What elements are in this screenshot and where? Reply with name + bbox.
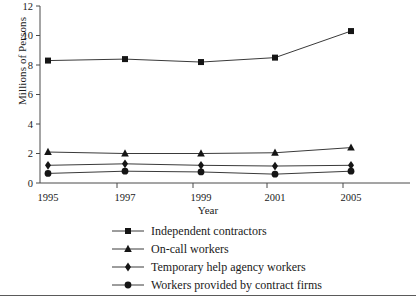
legend-item-label: On-call workers xyxy=(151,242,229,256)
svg-text:4: 4 xyxy=(28,119,34,130)
legend-item[interactable]: Workers provided by contract firms xyxy=(0,276,416,294)
circle-marker-icon xyxy=(112,278,144,292)
svg-text:2001: 2001 xyxy=(265,192,286,203)
svg-text:6: 6 xyxy=(28,89,33,100)
x-axis-title: Year xyxy=(0,204,416,216)
legend-item-label: Temporary help agency workers xyxy=(151,260,306,274)
legend-item-label: Independent contractors xyxy=(151,224,267,238)
legend-item-label: Workers provided by contract firms xyxy=(151,278,322,292)
svg-text:0: 0 xyxy=(28,178,33,189)
chart-figure: 02468101219951997199920012005 Millions o… xyxy=(0,0,416,301)
legend-item[interactable]: Independent contractors xyxy=(0,222,416,240)
svg-text:1999: 1999 xyxy=(191,192,212,203)
y-axis-title: Millions of Persons xyxy=(16,0,28,131)
legend-item[interactable]: Temporary help agency workers xyxy=(0,258,416,276)
legend-item[interactable]: On-call workers xyxy=(0,240,416,258)
chart-legend: Independent contractorsOn-call workersTe… xyxy=(0,222,416,294)
svg-text:8: 8 xyxy=(28,60,33,71)
bottom-divider xyxy=(0,295,416,296)
svg-text:1997: 1997 xyxy=(115,192,136,203)
svg-text:1995: 1995 xyxy=(38,192,59,203)
triangle-marker-icon xyxy=(112,242,144,256)
square-marker-icon xyxy=(112,224,144,238)
svg-text:2: 2 xyxy=(28,148,33,159)
svg-text:2005: 2005 xyxy=(341,192,362,203)
diamond-marker-icon xyxy=(112,260,144,274)
